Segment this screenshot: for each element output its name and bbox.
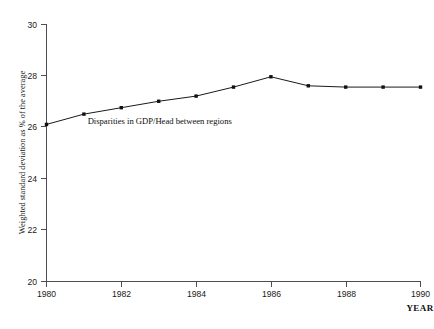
chart-figure: · · · · · · · · · · · · · 30 28 26 24 22…	[0, 0, 434, 329]
series-data-point	[194, 94, 197, 97]
x-axis: 1980 1982 1984 1986 1988 1990 YEAR	[37, 282, 434, 314]
x-tick-label-1988: 1988	[337, 289, 356, 299]
series-data-point	[344, 85, 347, 88]
y-tick-label-20: 20	[27, 277, 37, 287]
x-tick-label-1982: 1982	[112, 289, 131, 299]
series-data-point	[381, 85, 384, 88]
y-tick-label-24: 24	[27, 174, 37, 184]
y-axis-title: Weighted standard deviation as % of the …	[18, 71, 27, 235]
x-tick-label-1980: 1980	[37, 289, 56, 299]
y-tick-label-30: 30	[27, 20, 37, 30]
series-annotation-label: Disparities in GDP/Head between regions	[88, 116, 233, 126]
y-axis: 30 28 26 24 22 20 Weighted standard devi…	[18, 20, 47, 287]
line-chart-canvas: 30 28 26 24 22 20 Weighted standard devi…	[0, 0, 434, 329]
x-tick-label-1984: 1984	[187, 289, 206, 299]
x-tick-label-1990: 1990	[411, 289, 430, 299]
series-data-point	[232, 85, 235, 88]
y-tick-label-22: 22	[27, 225, 37, 235]
series-data-point	[419, 85, 422, 88]
series-data-point	[307, 84, 310, 87]
series-data-point	[269, 75, 272, 78]
x-axis-title: YEAR	[406, 303, 433, 313]
series-data-point	[45, 123, 48, 126]
y-tick-label-26: 26	[27, 122, 37, 132]
series-data-point	[120, 106, 123, 109]
y-tick-label-28: 28	[27, 71, 37, 81]
series-data-point	[82, 112, 85, 115]
x-tick-label-1986: 1986	[262, 289, 281, 299]
series-data-point	[157, 100, 160, 103]
